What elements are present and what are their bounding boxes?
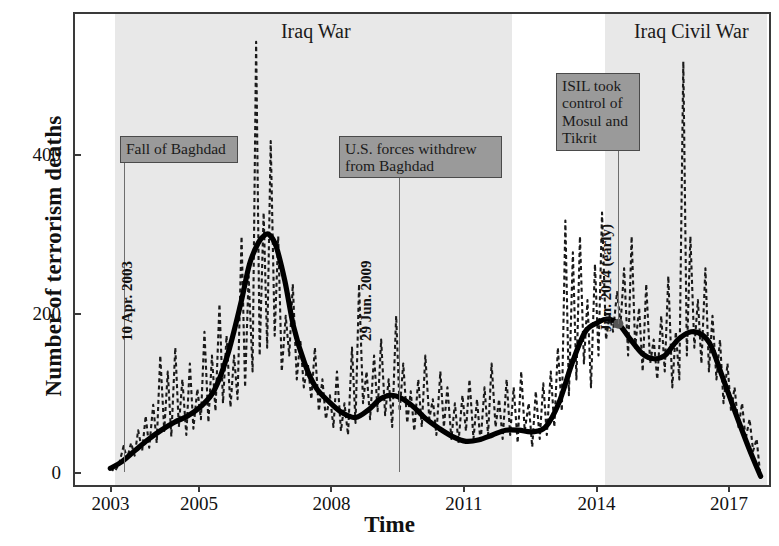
y-tick-label: 400: [15, 144, 61, 166]
trend-series-line: [110, 234, 760, 477]
annotation-box-isil-took-control[interactable]: ISIL took control of Mosul and Tikrit: [556, 73, 640, 151]
series-layer: [75, 14, 771, 487]
plot-area: Iraq WarIraq Civil War Fall of Baghdad10…: [73, 12, 771, 487]
x-tick-mark: [728, 485, 730, 492]
x-tick-mark: [596, 485, 598, 492]
x-axis-title: Time: [0, 512, 779, 538]
x-tick-label: 2005: [164, 493, 234, 515]
annotation-date-us-forces-withdrew: 29 Jun. 2009: [358, 261, 375, 341]
x-tick-mark: [330, 485, 332, 492]
raw-series-line: [110, 42, 760, 479]
x-tick-mark: [110, 485, 112, 492]
x-tick-mark: [198, 485, 200, 492]
annotation-box-fall-of-baghdad[interactable]: Fall of Baghdad: [120, 136, 238, 163]
annotation-date-fall-of-baghdad: 10 Apr. 2003: [119, 261, 136, 341]
chart-figure: Number of terrorism deaths Time Iraq War…: [0, 0, 779, 546]
x-tick-label: 2014: [562, 493, 632, 515]
y-tick-label: 0: [15, 462, 61, 484]
x-tick-label: 2008: [296, 493, 366, 515]
annotation-box-us-forces-withdrew[interactable]: U.S. forces withdrew from Baghdad: [339, 136, 502, 178]
x-tick-label: 2017: [694, 493, 764, 515]
annotation-leader-line-isil-took-control: [618, 151, 619, 324]
y-tick-mark: [74, 472, 81, 474]
y-tick-label: 200: [15, 303, 61, 325]
x-tick-mark: [463, 485, 465, 492]
x-tick-label: 2011: [429, 493, 499, 515]
annotation-leader-line-us-forces-withdrew: [399, 178, 400, 472]
y-tick-mark: [74, 313, 81, 315]
x-tick-label: 2003: [76, 493, 146, 515]
y-tick-mark: [74, 154, 81, 156]
annotation-date-isil-took-control: Jun. 2014 (early): [598, 224, 615, 332]
